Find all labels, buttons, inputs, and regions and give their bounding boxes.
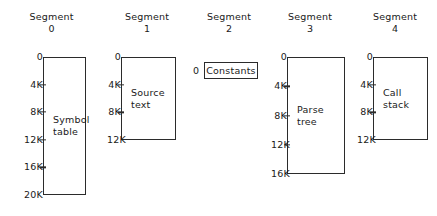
segment-1-header-number: 1 <box>103 23 191 35</box>
segment-2-constants-box: Constants <box>204 62 258 79</box>
segment-1: Segment1Source text04K8K12K <box>103 0 191 216</box>
segment-4-box: Call stack <box>373 57 428 140</box>
segment-4-tick-label-bottom: 12K <box>357 135 373 145</box>
segment-1-content-label: Source text <box>131 87 165 111</box>
segment-2-content-label: Constants <box>206 65 255 76</box>
segment-3-axis: 04K8K12K16K <box>267 57 287 174</box>
segment-0: Segment0Symbol table04K8K12K16K20K <box>0 0 103 216</box>
segment-1-tick-mark-8K <box>118 112 124 113</box>
segment-2-header-word: Segment <box>191 11 267 23</box>
segment-0-header: Segment0 <box>0 11 103 34</box>
segment-1-header: Segment1 <box>103 11 191 34</box>
segment-1-box: Source text <box>121 57 176 140</box>
segment-0-axis: 04K8K12K16K20K <box>0 57 43 195</box>
segment-3-header-word: Segment <box>267 11 353 23</box>
segment-0-tick-label-16K: 16K <box>4 162 43 172</box>
segment-3-box: Parse tree <box>287 57 345 174</box>
segment-1-tick-mark-4K <box>118 84 124 85</box>
segment-0-tick-label-top: 0 <box>4 52 43 62</box>
segment-1-tick-label-top: 0 <box>107 52 121 62</box>
segment-1-header-word: Segment <box>103 11 191 23</box>
segment-4-tick-label-top: 0 <box>357 52 373 62</box>
segment-0-header-word: Segment <box>0 11 103 23</box>
segment-3-tick-mark-8K <box>284 115 290 116</box>
segment-0-tick-label-8K: 8K <box>4 107 43 117</box>
segment-0-header-number: 0 <box>0 23 103 35</box>
segment-0-tick-mark-4K <box>40 84 46 85</box>
segment-2-header: Segment2 <box>191 11 267 34</box>
segment-3-content-label: Parse tree <box>297 104 324 128</box>
segmented-memory-diagram: Segment0Symbol table04K8K12K16K20KSegmen… <box>0 0 437 216</box>
segment-2: Segment2Constants0 <box>191 0 267 216</box>
segment-3-tick-mark-12K <box>284 144 290 145</box>
segment-4: Segment4Call stack04K8K12K <box>353 0 437 216</box>
segment-4-tick-mark-4K <box>370 84 376 85</box>
segment-3-tick-label-top: 0 <box>271 52 287 62</box>
segment-0-tick-mark-8K <box>40 112 46 113</box>
segment-3-header-number: 3 <box>267 23 353 35</box>
segment-2-header-number: 2 <box>191 23 267 35</box>
segment-4-content-label: Call stack <box>383 87 409 111</box>
segment-4-axis: 04K8K12K <box>353 57 373 140</box>
segment-0-box: Symbol table <box>43 57 86 195</box>
segment-3-tick-mark-4K <box>284 86 290 87</box>
segment-0-content-label: Symbol table <box>53 114 90 138</box>
segment-2-tick-label-top: 0 <box>193 66 199 76</box>
segment-0-tick-mark-16K <box>40 167 46 168</box>
segment-3-tick-label-bottom: 16K <box>271 169 287 179</box>
segment-1-axis: 04K8K12K <box>103 57 121 140</box>
segment-0-tick-label-12K: 12K <box>4 135 43 145</box>
segment-4-header: Segment4 <box>353 11 437 34</box>
segment-0-tick-label-4K: 4K <box>4 80 43 90</box>
segment-3: Segment3Parse tree04K8K12K16K <box>267 0 353 216</box>
segment-4-tick-mark-8K <box>370 112 376 113</box>
segment-1-tick-label-bottom: 12K <box>107 135 121 145</box>
segment-4-header-number: 4 <box>353 23 437 35</box>
segment-0-tick-label-bottom: 20K <box>4 190 43 200</box>
segment-3-header: Segment3 <box>267 11 353 34</box>
segment-4-header-word: Segment <box>353 11 437 23</box>
segment-0-tick-mark-12K <box>40 139 46 140</box>
